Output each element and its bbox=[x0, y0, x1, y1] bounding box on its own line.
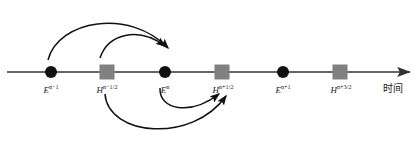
node-label-e-n-minus-1: En−1 bbox=[43, 86, 58, 95]
timeline-figure: En−1 Hn−1/2 En Hn+1/2 En+1 Hn+3/2 时间 bbox=[0, 0, 418, 146]
node-label-h-n-plus-half: Hn+1/2 bbox=[213, 86, 234, 95]
node-label-h-n-minus-half: Hn−1/2 bbox=[97, 86, 118, 95]
node-exponent-e-n-plus-1: n+1 bbox=[281, 83, 291, 90]
arrow-e-n-minus-1-to-e-n bbox=[48, 23, 168, 60]
figure-canvas bbox=[0, 0, 418, 146]
node-exponent-e-n: n bbox=[166, 83, 169, 90]
arrow-h-n-minus-half-to-h-n-plus-half bbox=[105, 94, 226, 129]
node-label-h-n-plus-3half: Hn+3/2 bbox=[331, 86, 352, 95]
node-exponent-h-n-plus-half: n+1/2 bbox=[219, 83, 234, 90]
node-exponent-e-n-minus-1: n−1 bbox=[49, 83, 59, 90]
node-exponent-h-n-plus-3half: n+3/2 bbox=[337, 83, 352, 90]
node-label-e-n: En bbox=[161, 86, 170, 95]
node-marker-h-n-minus-half bbox=[100, 65, 115, 80]
arrow-h-n-minus-half-to-e-n bbox=[100, 35, 165, 58]
node-marker-h-n-plus-half bbox=[215, 65, 230, 80]
node-label-e-n-plus-1: En+1 bbox=[275, 86, 290, 95]
node-marker-e-n-minus-1 bbox=[45, 66, 57, 78]
node-marker-h-n-plus-3half bbox=[333, 65, 348, 80]
axis-label-time: 时间 bbox=[383, 84, 403, 94]
node-exponent-h-n-minus-half: n−1/2 bbox=[103, 83, 118, 90]
node-marker-e-n bbox=[159, 66, 171, 78]
node-marker-e-n-plus-1 bbox=[277, 66, 289, 78]
